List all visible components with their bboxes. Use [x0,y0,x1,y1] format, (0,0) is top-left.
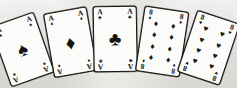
card-center-club-icon: ♣ [94,29,136,49]
card-pip-heart-icon: ♥ [202,24,209,34]
card-pip-heart-icon: ♥ [198,35,205,45]
card-index-bl: A♦ [54,62,66,75]
card-index-tl: A♦ [45,14,57,27]
card-center-spade-icon: ♠ [0,33,46,66]
card-index-br: A♣ [126,58,136,69]
card-pip-diamond-icon: ♦ [169,33,175,42]
card-center-diamond-icon: ♦ [48,29,93,55]
card-index-tl: A♣ [95,9,105,20]
card-index-bl: A♣ [96,58,106,69]
card-pip-heart-icon: ♥ [191,56,198,66]
card-pip-heart-icon: ♥ [211,51,218,61]
card-pip-heart-icon: ♥ [208,62,215,72]
card-pip-diamond-icon: ♦ [153,19,159,28]
card-fan-group: A♠A♠A♠A♠♠A♦A♦A♦A♦♦A♣A♣A♣A♣♣8♦8♦8♦8♦♦♦♦♦♦… [0,0,237,88]
card-index-tr: A♣ [125,8,135,19]
card-pip-diamond-icon: ♦ [167,44,173,53]
card-pip-diamond-icon: ♦ [148,53,154,62]
card-pip-grid: ♦♦♦♦♦♦♦♦ [141,16,182,67]
card-pip-diamond-icon: ♦ [165,55,171,64]
card-pip-diamond-icon: ♦ [152,30,158,39]
card-pip-grid: ♥♥♥♥♥♥♥♥ [185,21,232,75]
card-index-tl: A♠ [0,25,6,39]
card-index-tr: A♦ [75,9,87,22]
card-pip-heart-icon: ♥ [215,40,222,50]
card-pip-heart-icon: ♥ [195,46,202,56]
card-pip-diamond-icon: ♦ [150,41,156,50]
card-fan-illustration: Fanned poker hand illustration A♠A♠A♠A♠♠… [0,0,237,88]
card-index-bl: A♠ [9,70,22,84]
card-pip-heart-icon: ♥ [218,30,225,40]
playing-card-a-club[interactable]: A♣A♣A♣A♣♣ [93,6,138,73]
card-index-br: A♠ [39,60,52,74]
card-index-tr: A♠ [23,15,36,29]
card-pip-diamond-icon: ♦ [171,21,177,30]
